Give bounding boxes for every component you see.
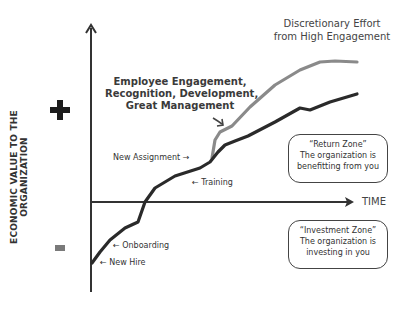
engagement-line-3: Great Management (105, 100, 255, 112)
new-assignment-label: New Assignment → (113, 153, 189, 162)
return-zone-line-2: The organization is (291, 150, 385, 161)
investment-zone-box: “Investment Zone” The organization is in… (288, 220, 388, 269)
engagement-annotation: Employee Engagement, Recognition, Develo… (105, 76, 255, 112)
engagement-line-2: Recognition, Development, (105, 88, 255, 100)
plus-icon (50, 100, 70, 120)
investment-zone-title: “Investment Zone” (291, 225, 385, 236)
new-hire-label: ← New Hire (100, 258, 146, 267)
title-line-2: from High Engagement (262, 30, 402, 43)
return-zone-line-3: benefitting from you (291, 161, 385, 172)
return-zone-box: “Return Zone” The organization is benefi… (288, 134, 388, 183)
time-label: TIME (362, 196, 386, 207)
minus-icon (55, 245, 65, 251)
engagement-line-1: Employee Engagement, (105, 76, 255, 88)
investment-zone-line-3: investing in you (291, 247, 385, 258)
investment-zone-line-2: The organization is (291, 236, 385, 247)
training-label: ← Training (192, 178, 233, 187)
return-zone-title: “Return Zone” (291, 139, 385, 150)
discretionary-effort-title: Discretionary Effort from High Engagemen… (262, 17, 402, 43)
onboarding-label: ← Onboarding (113, 241, 169, 250)
engagement-arrow-icon (213, 118, 222, 124)
y-axis-label: ECONOMIC VALUE TO THE ORGANIZATION (9, 72, 29, 282)
title-line-1: Discretionary Effort (262, 17, 402, 30)
